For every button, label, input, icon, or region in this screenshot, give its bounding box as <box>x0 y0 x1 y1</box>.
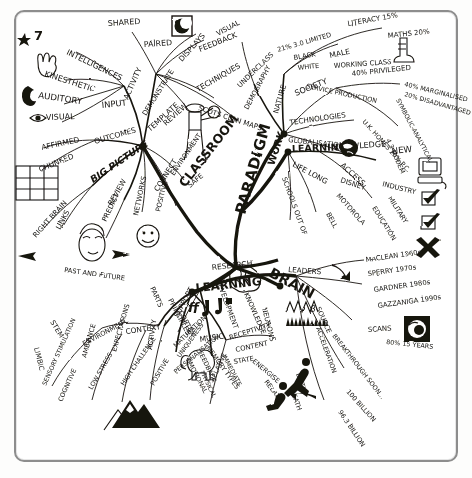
label-maths: MATHS 20% <box>387 28 430 40</box>
plane-icon <box>420 224 439 237</box>
label-scans: SCANS <box>368 324 393 334</box>
label-industry: INDUSTRY <box>382 180 418 196</box>
globe-icon <box>340 139 358 157</box>
ear-icon <box>22 86 36 106</box>
label-maclean: MACLEAN 1960s <box>365 248 422 264</box>
label-intelligences: INTELLIGENCES <box>65 48 124 83</box>
mindmap-drawing: PARADIGM CLASSROOM AFFIRMED OUTCOMES CHU… <box>0 0 472 478</box>
label-sperry: SPERRY 1970s <box>367 263 417 278</box>
label-music: MUSIC <box>199 332 224 344</box>
brain-scan-icon <box>404 316 430 342</box>
boot-icon <box>394 38 414 62</box>
label-breakthrough: BREAKTHROUGH SOON... <box>330 332 386 400</box>
mountain-icon <box>104 400 160 430</box>
label-963-billion: 96.3 BILLION <box>336 409 367 449</box>
check-mark-icon <box>422 189 440 205</box>
label-paired: PAIRED <box>144 38 173 49</box>
label-literacy: LITERACY 15% <box>347 11 399 28</box>
label-seven: 7 <box>34 28 43 43</box>
label-limbic: LIMBIC <box>32 347 46 372</box>
label-white: WHITE <box>297 62 319 72</box>
label-chunked: CHUNKED <box>37 152 75 174</box>
label-positive-2: POSITIVE <box>149 357 171 387</box>
label-schools-out-of: SCHOOLS OUT OF <box>280 176 308 236</box>
label-gardner: GARDNER 1980s <box>373 278 431 294</box>
label-limited-stat: 21% 3.0 LIMITED <box>276 31 332 54</box>
label-new: NEW <box>391 144 413 156</box>
label-nature: NATURE <box>271 83 288 114</box>
label-low-stress: LOW STRESS <box>87 351 115 391</box>
mindmap-canvas: PARADIGM CLASSROOM AFFIRMED OUTCOMES CHU… <box>0 0 472 478</box>
label-shared: SHARED <box>108 17 141 28</box>
label-parts: PARTS <box>148 286 164 310</box>
learning-principles-label: LEARNING <box>195 274 262 295</box>
label-auditory: AUDITORY <box>38 90 84 106</box>
label-male: MALE <box>329 47 351 60</box>
face-icon <box>79 224 105 261</box>
label-past-future: PAST AND FUTURE <box>64 266 126 282</box>
label-bell: BELL <box>324 211 339 230</box>
label-networks: NETWORKS <box>132 175 148 217</box>
label-gazzaniga: GAZZANIGA 1990s <box>377 293 442 310</box>
svg-text:ff: ff <box>188 300 200 315</box>
label-modem: 4.3 MODEM <box>384 138 406 175</box>
computer-icon <box>418 158 446 189</box>
label-predict: PREDICT <box>101 192 122 223</box>
label-motorola: MOTOROLA <box>335 192 368 227</box>
puzzle-icon <box>16 166 58 200</box>
label-activity: ACTIVITY <box>122 66 144 101</box>
label-content: CONTENT <box>235 339 270 354</box>
label-life-long: LIFE LONG <box>291 160 329 186</box>
label-military: MILITARY <box>386 195 409 226</box>
smiley-face-icon <box>137 225 159 247</box>
svg-text:β: β <box>309 304 316 314</box>
moon-square-icon <box>172 16 192 36</box>
label-visual: VISUAL <box>46 112 76 122</box>
branch-learning-principles: LEARNING PRINCIPLES CONTEXT ENVIRONMENT … <box>41 268 283 404</box>
eye-icon <box>30 115 46 122</box>
label-kinesthetic: KINESTHETIC <box>43 69 96 94</box>
label-techniques: TECHNIQUES <box>194 61 242 94</box>
label-state: STATE <box>233 355 255 366</box>
star-icon <box>17 33 31 46</box>
